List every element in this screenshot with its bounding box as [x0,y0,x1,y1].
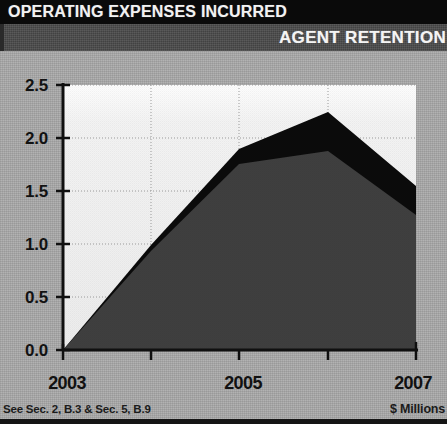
x-tick-label-2003: 2003 [48,373,86,394]
units-label: $ Millions [390,402,445,416]
x-tick-label-2005: 2005 [224,373,262,394]
x-tick-label-2007: 2007 [394,373,432,394]
bottom-rule [0,419,447,424]
chart-subtitle: AGENT RETENTION [279,28,446,48]
chart-page: OPERATING EXPENSES INCURRED AGENT RETENT… [0,0,447,424]
subtitle-bar: AGENT RETENTION [0,24,447,51]
x-axis-labels: 2003 2005 2007 [0,373,447,399]
area-chart-svg [0,51,447,373]
title-bar: OPERATING EXPENSES INCURRED [0,0,447,24]
chart-plot-area: 2.5 2.0 1.5 1.0 0.5 0.0 [0,51,447,373]
page-title: OPERATING EXPENSES INCURRED [8,3,287,21]
source-note: See Sec. 2, B.3 & Sec. 5, B.9 [3,403,151,415]
chart-footer: See Sec. 2, B.3 & Sec. 5, B.9 $ Millions [0,398,447,419]
